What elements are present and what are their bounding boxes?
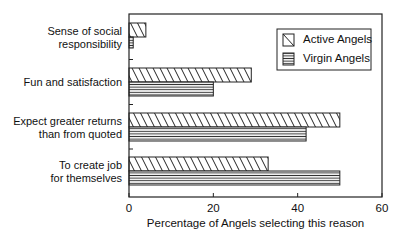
bar-virgin [129,171,340,185]
bar-virgin [129,37,133,48]
horizontal-lines-icon [283,53,294,65]
bar-virgin [129,127,306,141]
category-label: To create job [59,159,122,171]
x-tick-label: 20 [207,202,220,214]
bar-active [129,23,146,37]
legend-label-virgin: Virgin Angels [303,52,370,64]
x-tick-label: 0 [126,202,132,214]
category-labels: Sense of socialresponsibilityFun and sat… [13,25,122,184]
category-label: Fun and satisfaction [24,76,122,88]
bar-active [129,68,251,82]
bar-virgin [129,82,213,96]
category-label: than from quoted [39,128,122,140]
category-label: Sense of social [47,25,122,37]
bar-active [129,157,268,171]
category-label: Expect greater returns [13,115,122,127]
category-label: responsibility [58,38,122,50]
legend-label-active: Active Angels [303,33,372,45]
x-axis-label: Percentage of Angels selecting this reas… [147,217,364,229]
category-label: for themselves [50,172,122,184]
x-tick-label: 40 [291,202,304,214]
bar-active [129,113,340,127]
legend: Active Angels Virgin Angels [277,29,372,70]
bar-chart: Sense of socialresponsibilityFun and sat… [0,0,404,240]
x-tick-label: 60 [376,202,389,214]
